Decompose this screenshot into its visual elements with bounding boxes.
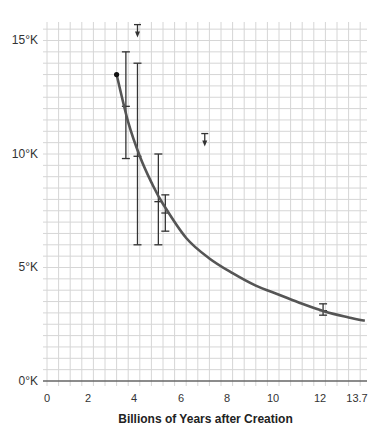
y-tick-10: 10°K	[0, 147, 38, 161]
x-tick-4: 4	[119, 392, 149, 404]
x-tick-10: 10	[258, 392, 288, 404]
x-tick-0: 0	[32, 392, 62, 404]
temperature-curve	[117, 75, 365, 321]
chart-plot-area	[0, 0, 381, 440]
x-tick-8: 8	[212, 392, 242, 404]
grid-lines	[43, 22, 367, 386]
x-tick-13-7: 13.7	[342, 392, 372, 404]
x-axis-title: Billions of Years after Creation	[0, 412, 381, 426]
x-tick-6: 6	[166, 392, 196, 404]
x-tick-2: 2	[73, 392, 103, 404]
y-tick-0: 0°K	[0, 374, 38, 388]
curve-start-dot	[114, 72, 119, 77]
y-tick-15: 15°K	[0, 33, 38, 47]
x-tick-12: 12	[305, 392, 335, 404]
y-tick-5: 5°K	[0, 260, 38, 274]
